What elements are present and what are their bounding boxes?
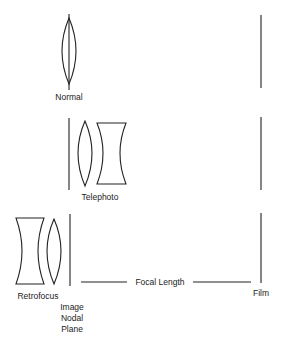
image-nodal-plane-line-1: Image	[60, 302, 84, 313]
retrofocus-lens-group	[16, 213, 261, 286]
telephoto-converging-lens-icon	[78, 121, 92, 186]
telephoto-diverging-lens-icon	[97, 123, 126, 184]
image-nodal-plane-line-3: Plane	[60, 324, 84, 335]
telephoto-label: Telephoto	[82, 193, 119, 202]
retrofocus-diverging-lens-icon	[16, 218, 44, 284]
telephoto-lens-group	[69, 117, 261, 190]
retrofocus-label: Retrofocus	[17, 292, 58, 301]
image-nodal-plane-label: Image Nodal Plane	[60, 302, 84, 335]
retrofocus-converging-lens-icon	[47, 219, 61, 284]
normal-lens-group	[62, 14, 261, 90]
film-label: Film	[253, 289, 269, 298]
lens-diagram	[0, 0, 287, 341]
image-nodal-plane-line-2: Nodal	[60, 313, 84, 324]
focal-length-label: Focal Length	[135, 278, 184, 287]
normal-label: Normal	[55, 93, 82, 102]
